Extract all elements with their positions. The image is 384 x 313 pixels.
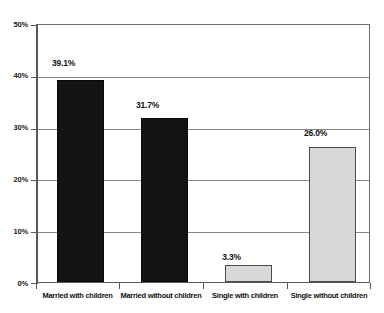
- x-axis-tick: [370, 283, 371, 289]
- y-axis-tick-label: 40%: [14, 71, 28, 80]
- y-axis-tick: [31, 129, 38, 130]
- x-axis-tick: [119, 283, 120, 289]
- y-axis-tick-label: 10%: [14, 227, 28, 236]
- bar-single-without-children: [309, 147, 356, 282]
- y-axis-labels: 50% 40% 30% 20% 10% 0%: [0, 0, 28, 313]
- y-axis-tick: [31, 77, 38, 78]
- y-axis-tick: [31, 25, 38, 26]
- bar-value-label: 39.1%: [40, 58, 87, 68]
- x-axis-tick: [36, 283, 37, 289]
- x-axis-tick: [287, 283, 288, 289]
- bar-value-label: 26.0%: [292, 128, 339, 138]
- x-axis-tick: [203, 283, 204, 289]
- bar-chart: 50% 40% 30% 20% 10% 0% 39.1% 31.7% 3.3% …: [0, 0, 384, 313]
- y-axis-tick-label: 30%: [14, 123, 28, 132]
- bar-single-with-children: [225, 265, 272, 282]
- bar-value-label: 31.7%: [124, 100, 171, 110]
- y-axis-tick: [31, 180, 38, 181]
- gridline-40: [38, 77, 369, 78]
- bar-married-with-children: [57, 80, 104, 283]
- y-axis-tick-label: 50%: [14, 20, 28, 29]
- y-axis-tick: [31, 232, 38, 233]
- bar-married-without-children: [141, 118, 188, 282]
- y-axis-tick-label: 20%: [14, 175, 28, 184]
- x-axis-category-label: Single with children: [203, 291, 287, 301]
- y-axis-tick-label: 0%: [18, 279, 28, 288]
- x-axis-category-label: Married with children: [36, 291, 119, 301]
- x-axis-category-label: Single without children: [287, 291, 371, 301]
- x-axis-category-label: Married without children: [119, 291, 203, 301]
- bar-value-label: 3.3%: [208, 252, 255, 262]
